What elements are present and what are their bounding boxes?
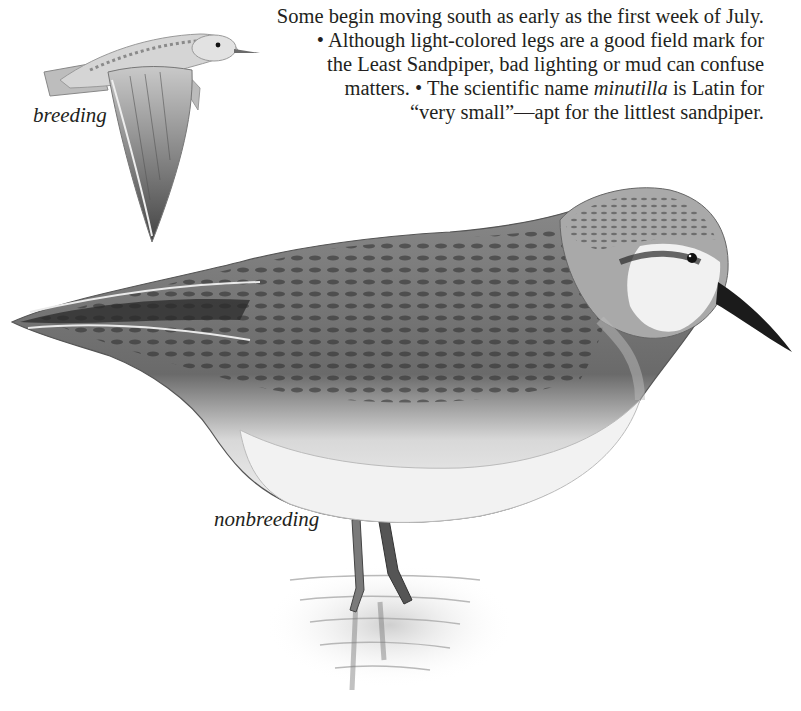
- caption-breeding: breeding: [33, 103, 107, 127]
- flying-bird-illustration: [44, 34, 260, 242]
- caption-nonbreeding: nonbreeding: [214, 507, 319, 531]
- standing-bird-illustration: [12, 188, 792, 690]
- illustrations-canvas: breeding: [0, 0, 801, 711]
